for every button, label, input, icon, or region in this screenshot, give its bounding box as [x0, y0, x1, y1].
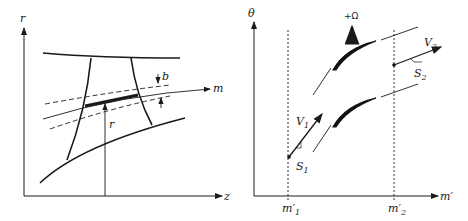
streamline-label: m — [213, 82, 223, 95]
station-2-label: m′2 — [388, 202, 406, 217]
radius-label: r — [109, 118, 115, 131]
s1-label: S1 — [296, 160, 309, 175]
v1-label: V1 — [296, 115, 309, 130]
streamline-m — [43, 89, 210, 119]
meridional-panel: r z m b r — [20, 12, 230, 203]
lower-blade-inlet-line — [313, 125, 331, 152]
lower-blade — [333, 98, 376, 127]
m-prime-axis-label: m′ — [440, 190, 453, 203]
lower-blade-outlet-line — [381, 84, 418, 97]
s2-angle-mark — [411, 59, 422, 62]
v2-label: V2 — [424, 36, 437, 51]
upper-blade-outlet-line — [381, 27, 418, 40]
upper-blade-inlet-line — [313, 68, 331, 95]
z-axis-label: z — [223, 190, 230, 203]
blade-to-blade-panel: +Ω V1 S1 V2 S2 θ m′ m′1 m′2 — [248, 7, 453, 217]
s2-label: S2 — [414, 67, 427, 82]
r-axis-label: r — [20, 12, 26, 25]
upper-blade — [333, 41, 376, 70]
trailing-edge — [131, 58, 152, 125]
rotation-label: +Ω — [344, 11, 359, 21]
theta-axis-label: θ — [248, 7, 255, 20]
blade-streamline-segment — [85, 95, 138, 106]
shroud-wall — [43, 53, 180, 58]
station-1-label: m′1 — [282, 202, 300, 217]
figure-canvas: r z m b r +Ω V1 S1 V2 S2 — [0, 0, 468, 221]
thickness-label: b — [162, 70, 169, 83]
